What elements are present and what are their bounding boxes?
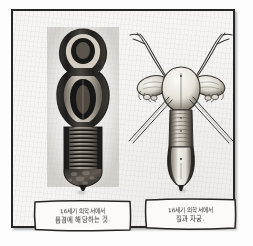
caption-left-line2: 음경에 해당하는 것. (55, 215, 110, 224)
caption-right-line2: 질과 자궁. (176, 214, 205, 223)
caption-right-line1: 16세기 의학서에서 (168, 205, 213, 214)
figure-right (125, 23, 237, 191)
caption-left: 16세기 의학서에서 음경에 해당하는 것. (32, 198, 133, 233)
scanned-book-page: 16세기 의학서에서 음경에 해당하는 것. 16세기 의학서에서 질과 자궁. (0, 0, 253, 246)
page-frame: 16세기 의학서에서 음경에 해당하는 것. 16세기 의학서에서 질과 자궁. (11, 9, 235, 228)
figure-left (41, 23, 125, 191)
caption-right: 16세기 의학서에서 질과 자궁. (143, 197, 238, 231)
caption-left-line1: 16세기 의학서에서 (60, 207, 105, 216)
